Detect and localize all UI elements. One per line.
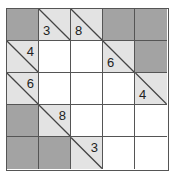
- across-clue: 8: [59, 109, 66, 122]
- entry-cell[interactable]: [135, 137, 167, 169]
- kakuro-grid: 3 8 4 6 6 4 8 3: [6, 8, 169, 171]
- blocked-cell: [103, 9, 135, 41]
- down-clue: 4: [139, 88, 146, 101]
- blocked-cell: [135, 41, 167, 73]
- down-clue: 8: [75, 24, 82, 37]
- entry-cell[interactable]: [103, 73, 135, 105]
- clue-cell: 6: [7, 73, 39, 105]
- entry-cell[interactable]: [39, 73, 71, 105]
- clue-cell: 8: [71, 9, 103, 41]
- clue-cell: 3: [71, 137, 103, 169]
- clue-cell: 4: [135, 73, 167, 105]
- clue-cell: 3: [39, 9, 71, 41]
- entry-cell[interactable]: [135, 105, 167, 137]
- across-clue: 6: [27, 77, 34, 90]
- clue-cell: 8: [39, 105, 71, 137]
- down-clue: 6: [107, 56, 114, 69]
- blocked-cell: [7, 105, 39, 137]
- blocked-cell: [39, 137, 71, 169]
- clue-cell: 4: [7, 41, 39, 73]
- across-clue: 3: [91, 141, 98, 154]
- clue-cell: 6: [103, 41, 135, 73]
- blocked-cell: [7, 137, 39, 169]
- entry-cell[interactable]: [39, 41, 71, 73]
- entry-cell[interactable]: [71, 105, 103, 137]
- entry-cell[interactable]: [103, 105, 135, 137]
- entry-cell[interactable]: [103, 137, 135, 169]
- blocked-cell: [7, 9, 39, 41]
- entry-cell[interactable]: [71, 41, 103, 73]
- across-clue: 4: [27, 45, 34, 58]
- down-clue: 3: [43, 24, 50, 37]
- blocked-cell: [135, 9, 167, 41]
- entry-cell[interactable]: [71, 73, 103, 105]
